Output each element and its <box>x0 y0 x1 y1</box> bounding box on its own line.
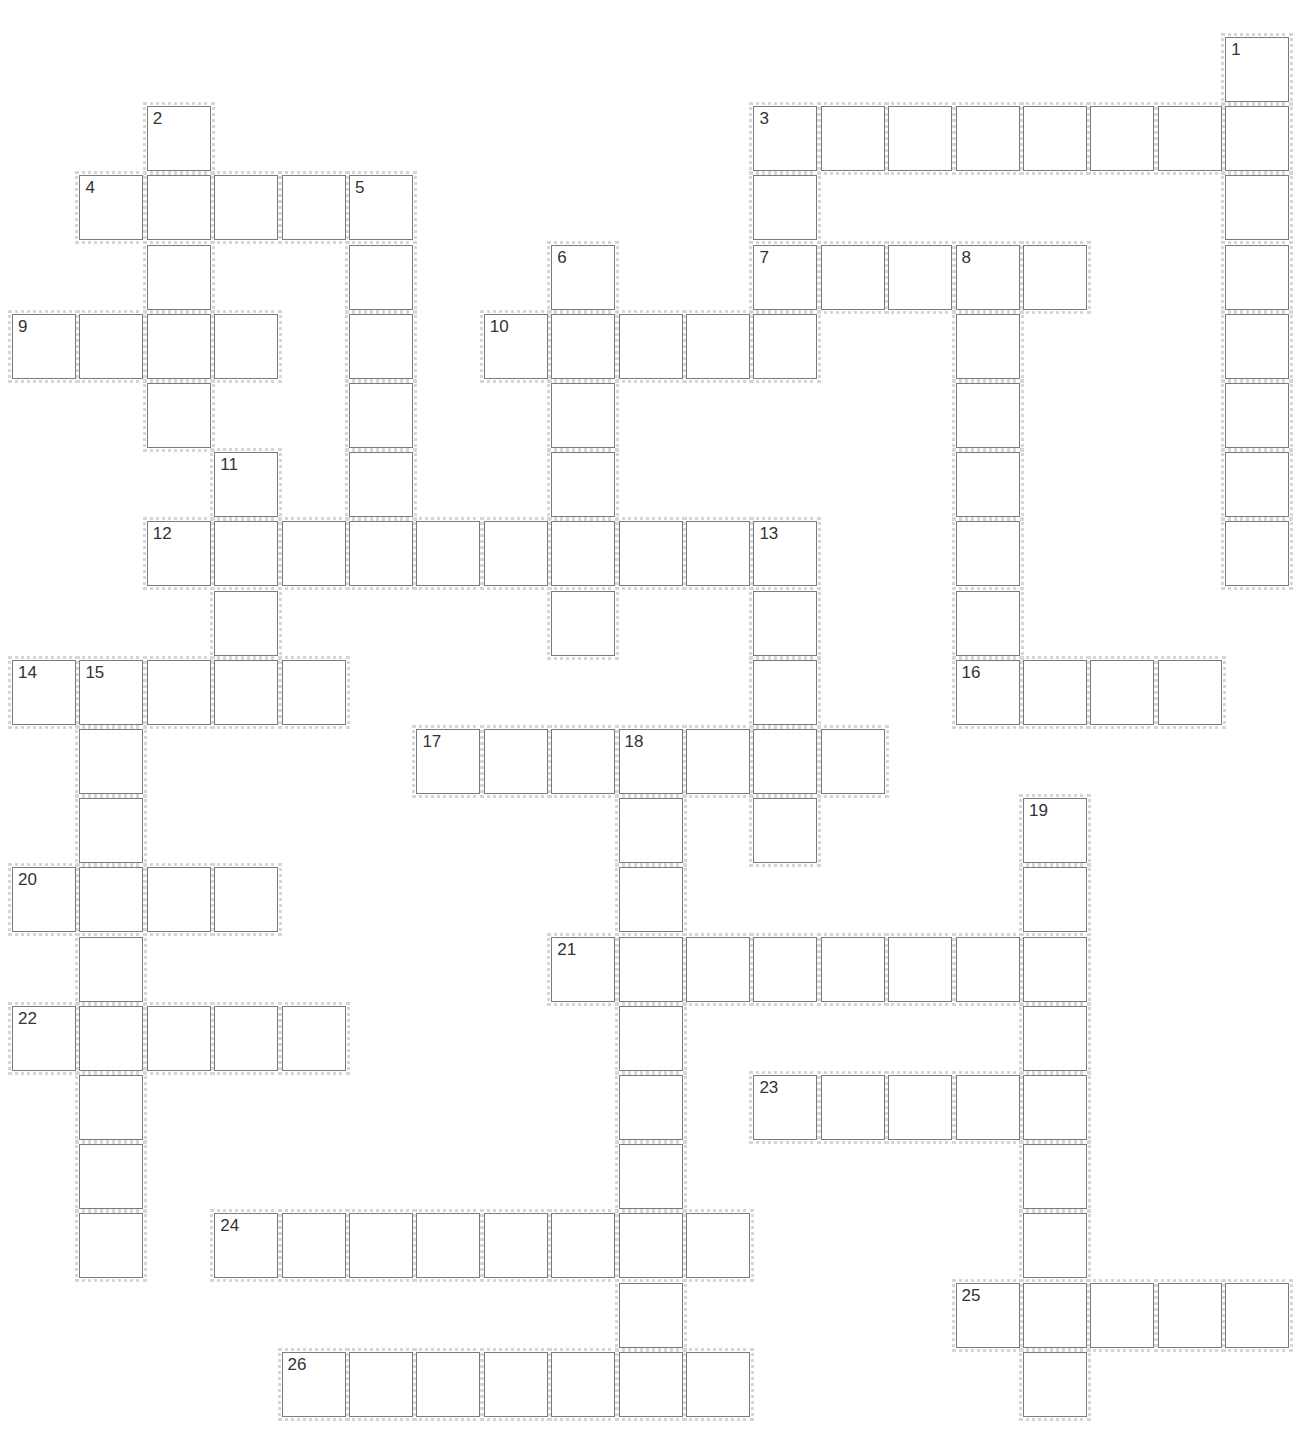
crossword-cell[interactable]: 10 <box>484 314 548 379</box>
crossword-cell[interactable] <box>551 383 615 448</box>
crossword-cell[interactable] <box>619 937 683 1002</box>
crossword-cell[interactable] <box>619 1213 683 1278</box>
crossword-cell[interactable] <box>956 521 1020 586</box>
crossword-cell[interactable] <box>1023 1006 1087 1071</box>
crossword-cell[interactable] <box>821 937 885 1002</box>
crossword-cell[interactable] <box>79 314 143 379</box>
crossword-cell[interactable] <box>416 521 480 586</box>
crossword-cell[interactable] <box>484 521 548 586</box>
crossword-cell[interactable] <box>551 591 615 656</box>
crossword-cell[interactable] <box>79 1144 143 1209</box>
crossword-cell[interactable]: 21 <box>551 937 615 1002</box>
crossword-cell[interactable] <box>214 591 278 656</box>
crossword-cell[interactable] <box>79 1075 143 1140</box>
crossword-cell[interactable] <box>416 1213 480 1278</box>
crossword-cell[interactable] <box>686 1213 750 1278</box>
crossword-cell[interactable] <box>1023 245 1087 310</box>
crossword-cell[interactable] <box>686 937 750 1002</box>
crossword-cell[interactable] <box>484 1352 548 1417</box>
crossword-cell[interactable] <box>619 1144 683 1209</box>
crossword-cell[interactable] <box>349 314 413 379</box>
crossword-cell[interactable] <box>282 521 346 586</box>
crossword-cell[interactable]: 1 <box>1225 37 1289 102</box>
crossword-cell[interactable] <box>551 1352 615 1417</box>
crossword-cell[interactable] <box>1090 106 1154 171</box>
crossword-cell[interactable] <box>888 1075 952 1140</box>
crossword-cell[interactable] <box>1158 106 1222 171</box>
crossword-cell[interactable] <box>956 937 1020 1002</box>
crossword-cell[interactable]: 9 <box>12 314 76 379</box>
crossword-cell[interactable] <box>214 660 278 725</box>
crossword-cell[interactable]: 3 <box>753 106 817 171</box>
crossword-cell[interactable] <box>1090 660 1154 725</box>
crossword-cell[interactable]: 4 <box>79 175 143 240</box>
crossword-cell[interactable] <box>349 1213 413 1278</box>
crossword-cell[interactable] <box>147 660 211 725</box>
crossword-cell[interactable] <box>1225 452 1289 517</box>
crossword-cell[interactable] <box>1225 383 1289 448</box>
crossword-cell[interactable] <box>619 1075 683 1140</box>
crossword-cell[interactable]: 18 <box>619 729 683 794</box>
crossword-cell[interactable]: 23 <box>753 1075 817 1140</box>
crossword-cell[interactable] <box>282 1213 346 1278</box>
crossword-cell[interactable] <box>1158 660 1222 725</box>
crossword-cell[interactable]: 2 <box>147 106 211 171</box>
crossword-cell[interactable]: 26 <box>282 1352 346 1417</box>
crossword-cell[interactable] <box>753 314 817 379</box>
crossword-cell[interactable] <box>753 937 817 1002</box>
crossword-cell[interactable] <box>484 729 548 794</box>
crossword-cell[interactable] <box>147 175 211 240</box>
crossword-cell[interactable] <box>821 729 885 794</box>
crossword-cell[interactable] <box>1225 106 1289 171</box>
crossword-cell[interactable] <box>1023 1352 1087 1417</box>
crossword-cell[interactable] <box>349 245 413 310</box>
crossword-cell[interactable] <box>1225 1283 1289 1348</box>
crossword-cell[interactable] <box>551 314 615 379</box>
crossword-cell[interactable] <box>214 867 278 932</box>
crossword-cell[interactable] <box>551 729 615 794</box>
crossword-cell[interactable] <box>956 452 1020 517</box>
crossword-cell[interactable] <box>1225 245 1289 310</box>
crossword-cell[interactable] <box>1225 521 1289 586</box>
crossword-cell[interactable] <box>956 383 1020 448</box>
crossword-cell[interactable]: 13 <box>753 521 817 586</box>
crossword-cell[interactable]: 25 <box>956 1283 1020 1348</box>
crossword-cell[interactable] <box>1023 937 1087 1002</box>
crossword-cell[interactable] <box>619 798 683 863</box>
crossword-cell[interactable] <box>484 1213 548 1278</box>
crossword-cell[interactable] <box>956 1075 1020 1140</box>
crossword-cell[interactable] <box>1023 1213 1087 1278</box>
crossword-cell[interactable]: 6 <box>551 245 615 310</box>
crossword-cell[interactable] <box>147 867 211 932</box>
crossword-cell[interactable] <box>79 1006 143 1071</box>
crossword-cell[interactable] <box>956 591 1020 656</box>
crossword-cell[interactable] <box>214 175 278 240</box>
crossword-cell[interactable] <box>1023 106 1087 171</box>
crossword-cell[interactable]: 5 <box>349 175 413 240</box>
crossword-cell[interactable] <box>619 521 683 586</box>
crossword-cell[interactable] <box>619 314 683 379</box>
crossword-cell[interactable] <box>214 1006 278 1071</box>
crossword-cell[interactable] <box>282 1006 346 1071</box>
crossword-cell[interactable] <box>214 314 278 379</box>
crossword-cell[interactable] <box>282 175 346 240</box>
crossword-cell[interactable] <box>349 1352 413 1417</box>
crossword-cell[interactable] <box>1225 314 1289 379</box>
crossword-cell[interactable] <box>888 245 952 310</box>
crossword-cell[interactable] <box>1023 1144 1087 1209</box>
crossword-cell[interactable] <box>753 660 817 725</box>
crossword-cell[interactable] <box>551 1213 615 1278</box>
crossword-cell[interactable] <box>147 1006 211 1071</box>
crossword-cell[interactable] <box>753 591 817 656</box>
crossword-cell[interactable]: 22 <box>12 1006 76 1071</box>
crossword-cell[interactable]: 14 <box>12 660 76 725</box>
crossword-cell[interactable] <box>686 314 750 379</box>
crossword-cell[interactable] <box>1225 175 1289 240</box>
crossword-cell[interactable] <box>416 1352 480 1417</box>
crossword-cell[interactable] <box>956 106 1020 171</box>
crossword-cell[interactable] <box>551 452 615 517</box>
crossword-cell[interactable] <box>349 383 413 448</box>
crossword-cell[interactable]: 8 <box>956 245 1020 310</box>
crossword-cell[interactable] <box>1023 660 1087 725</box>
crossword-cell[interactable] <box>619 1352 683 1417</box>
